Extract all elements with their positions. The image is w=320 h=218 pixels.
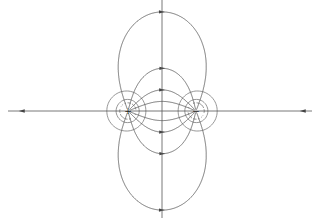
- dipole-field-diagram: +−: [0, 0, 320, 218]
- arrow-head-icon: [300, 109, 306, 112]
- arrow-head-icon: [19, 109, 25, 112]
- dipole-axis: [8, 109, 312, 112]
- negative-charge-label: −: [192, 106, 200, 116]
- positive-charge-label: +: [124, 106, 132, 116]
